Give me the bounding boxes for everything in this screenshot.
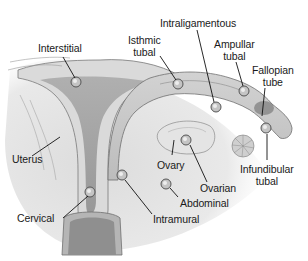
label-line-1: Isthmic [128,34,161,46]
label-ovarian: Ovarian [200,182,236,194]
label-line-1: Fallopian [252,64,294,76]
label-abdominal: Abdominal [180,197,229,209]
label-ampullar-tubal: Ampullar tubal [214,38,255,62]
label-interstitial: Interstitial [38,42,82,54]
label-uterus: Uterus [12,153,42,165]
vagina-shape [62,212,122,255]
label-line-2: tube [252,76,294,88]
label-line-1: Ampullar [214,38,255,50]
label-isthmic-tubal: Isthmic tubal [128,34,161,58]
label-fallopian-tube: Fallopian tube [252,64,294,88]
label-line-2: tubal [240,175,294,187]
label-ovary: Ovary [157,159,185,171]
label-line-1: Infundibular [240,163,294,175]
label-intraligamentous: Intraligamentous [160,17,236,29]
label-line-2: tubal [214,50,255,62]
label-infundibular-tubal: Infundibular tubal [240,163,294,187]
label-line-2: tubal [128,46,161,58]
label-intramural: Intramural [153,213,199,225]
label-cervical: Cervical [17,212,54,224]
fimbriae-shape [232,135,254,157]
